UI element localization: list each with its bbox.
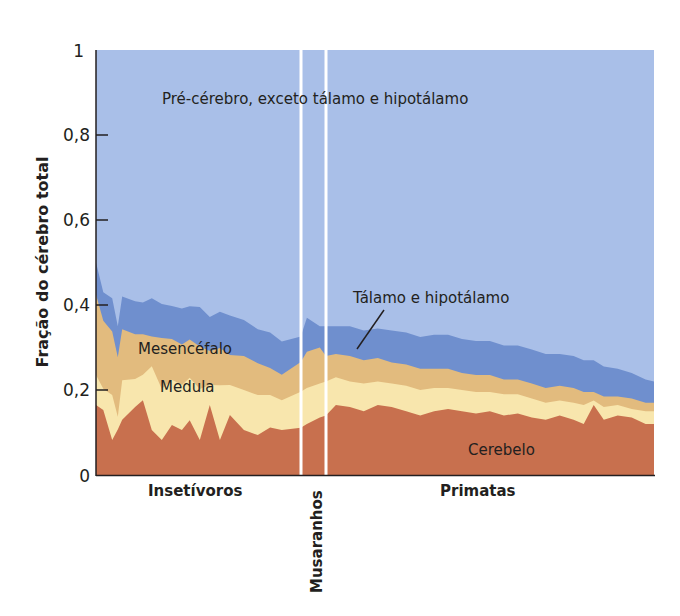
ytick-label-0-4: 0,4 <box>63 295 90 315</box>
label-cerebellum: Cerebelo <box>468 441 535 459</box>
label-medulla: Medula <box>160 378 215 396</box>
group-label-shrews: Musaranhos <box>308 490 326 593</box>
label-midbrain: Mesencéfalo <box>138 340 232 358</box>
ytick-label-0: 0 <box>79 466 90 486</box>
group-label-insectivores: Insetívoros <box>148 482 242 500</box>
ytick-label-1: 1 <box>73 41 84 61</box>
ytick-label-0-6: 0,6 <box>63 210 90 230</box>
ytick-label-0-2: 0,2 <box>63 380 90 400</box>
label-thalamus: Tálamo e hipotálamo <box>352 289 509 307</box>
group-label-primates: Primatas <box>440 482 516 500</box>
y-axis-title: Fração do cérebro total <box>33 156 52 367</box>
ytick-label-0-8: 0,8 <box>63 125 90 145</box>
label-forebrain: Pré-cérebro, exceto tálamo e hipotálamo <box>162 90 468 108</box>
stacked-area-chart: 1 0,8 0,6 0,4 0,2 0 Fração do cérebro to… <box>0 0 680 616</box>
plot-areas <box>96 50 654 475</box>
